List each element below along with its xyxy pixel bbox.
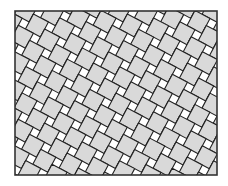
small-tile (0, 184, 2, 186)
large-tile (0, 21, 7, 44)
small-tile (221, 177, 228, 186)
small-tile (3, 105, 14, 116)
large-tile (0, 115, 7, 138)
large-tile (224, 123, 228, 146)
small-tile (127, 177, 138, 186)
large-tile (0, 48, 3, 71)
large-tile (221, 150, 228, 173)
tile-group (0, 0, 228, 186)
large-tile (191, 0, 214, 7)
large-tile (0, 89, 11, 112)
large-tile (29, 0, 52, 11)
small-tile (153, 0, 164, 3)
pythagorean-tiling-diagram (0, 0, 228, 186)
large-tile (82, 183, 105, 186)
small-tile (0, 131, 10, 142)
small-tile (0, 90, 2, 101)
small-tile (217, 109, 228, 120)
large-tile (165, 0, 188, 3)
small-tile (18, 0, 29, 11)
small-tile (153, 180, 164, 186)
small-tile (180, 0, 191, 7)
large-tile (0, 63, 15, 86)
small-tile (0, 158, 6, 169)
large-tile (217, 82, 228, 105)
large-tile (55, 179, 78, 186)
small-tile (0, 37, 10, 48)
small-tile (206, 0, 217, 11)
tiling-figure (0, 0, 228, 186)
large-tile (123, 176, 146, 186)
large-tile (149, 179, 172, 186)
small-tile (85, 184, 96, 186)
small-tile (225, 56, 228, 67)
large-tile (221, 56, 228, 79)
large-tile (0, 0, 11, 18)
small-tile (86, 0, 97, 7)
small-tile (33, 176, 44, 186)
large-tile (3, 0, 26, 7)
small-tile (224, 150, 228, 161)
small-tile (179, 184, 190, 186)
large-tile (217, 0, 228, 11)
large-tile (0, 157, 14, 180)
small-tile (0, 64, 6, 75)
large-tile (29, 176, 52, 186)
large-tile (217, 176, 228, 186)
small-tile (59, 0, 70, 3)
large-tile (0, 142, 3, 165)
large-tile (0, 183, 11, 186)
large-tile (225, 29, 228, 52)
large-tile (176, 183, 199, 186)
small-tile (217, 15, 228, 26)
large-tile (97, 0, 120, 7)
small-tile (221, 83, 228, 94)
small-tile (0, 0, 2, 7)
small-tile (112, 0, 123, 11)
small-tile (3, 11, 14, 22)
large-tile (123, 0, 146, 11)
small-tile (59, 180, 70, 186)
large-tile (71, 0, 94, 3)
